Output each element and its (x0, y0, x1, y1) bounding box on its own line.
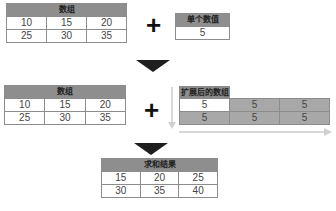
arrowhead-right-icon (324, 128, 332, 136)
broadcast-down-arrow-icon (171, 87, 173, 123)
down-arrow-icon (134, 143, 168, 155)
table-row: 10 15 20 (5, 99, 126, 112)
scalar-table-header: 单个数值 (176, 14, 230, 27)
arrowhead-down-icon (168, 122, 176, 129)
plus-operator-step1: + (146, 12, 161, 38)
table-row: 5 5 5 (180, 112, 330, 125)
table-cell: 35 (87, 30, 127, 43)
table-cell: 25 (7, 30, 47, 43)
table-cell: 40 (179, 185, 218, 198)
table-cell: 25 (179, 172, 218, 185)
array-table-header: 数组 (7, 4, 127, 17)
table-cell: 20 (85, 99, 125, 112)
table-cell: 20 (140, 172, 179, 185)
array-table-header: 数组 (5, 86, 126, 99)
table-row: 25 30 35 (7, 30, 127, 43)
expanded-table-header: 扩展后的数组 (179, 86, 230, 98)
table-cell: 10 (7, 17, 47, 30)
table-cell: 10 (5, 99, 45, 112)
table-cell: 5 (180, 99, 230, 112)
table-cell: 15 (45, 99, 85, 112)
table-cell: 5 (280, 112, 330, 125)
plus-operator-step2: + (144, 97, 159, 123)
result-table-header: 求和结果 (102, 159, 218, 172)
table-cell: 5 (230, 99, 280, 112)
result-table: 求和结果 15 20 25 30 35 40 (101, 158, 218, 198)
table-row: 10 15 20 (7, 17, 127, 30)
table-cell: 15 (47, 17, 87, 30)
table-row: 30 35 40 (102, 185, 218, 198)
table-cell: 5 (180, 112, 230, 125)
scalar-value: 5 (176, 27, 230, 40)
table-cell: 5 (230, 112, 280, 125)
table-row: 25 30 35 (5, 112, 126, 125)
table-cell: 35 (140, 185, 179, 198)
table-row: 5 (176, 27, 230, 40)
table-cell: 15 (102, 172, 141, 185)
table-row: 15 20 25 (102, 172, 218, 185)
table-cell: 30 (102, 185, 141, 198)
table-row: 5 5 5 (180, 99, 330, 112)
table-cell: 35 (85, 112, 125, 125)
expanded-table: 5 5 5 5 5 5 (179, 98, 330, 125)
array-table-step2: 数组 10 15 20 25 30 35 (4, 85, 126, 125)
table-cell: 25 (5, 112, 45, 125)
broadcast-right-arrow-icon (179, 131, 325, 133)
table-cell: 5 (280, 99, 330, 112)
table-cell: 20 (87, 17, 127, 30)
table-cell: 30 (47, 30, 87, 43)
array-table-step1: 数组 10 15 20 25 30 35 (6, 3, 127, 43)
down-arrow-icon (136, 60, 170, 72)
scalar-table: 单个数值 5 (175, 13, 230, 40)
table-cell: 30 (45, 112, 85, 125)
